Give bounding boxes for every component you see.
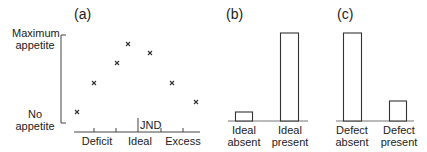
cat-ideal-absent: Ideal absent	[226, 124, 262, 148]
cat-defect-present-line1: Defect	[379, 124, 419, 136]
y-label-max: Maximum appetite	[12, 27, 58, 51]
bar-defect-absent	[344, 33, 362, 121]
y-label-min-line2: appetite	[12, 120, 58, 132]
y-label-min: No appetite	[12, 108, 58, 132]
bar-ideal-absent	[236, 112, 253, 121]
panel-c-bars	[336, 33, 414, 121]
x-axis	[74, 118, 200, 132]
y-axis-bracket	[61, 35, 66, 123]
x-label-excess: Excess	[165, 135, 201, 147]
x-label-ideal: Ideal	[126, 135, 154, 147]
point-1	[75, 110, 79, 114]
y-label-min-line1: No	[12, 108, 58, 120]
point-7	[194, 100, 198, 104]
cat-defect-absent-line1: Defect	[333, 124, 371, 136]
bar-ideal-present	[281, 33, 299, 121]
jnd-label: JND	[140, 119, 161, 131]
cat-defect-absent-line2: absent	[333, 136, 371, 148]
cat-defect-absent: Defect absent	[333, 124, 371, 148]
panel-c-title: (c)	[337, 6, 353, 22]
scatter-points	[75, 42, 198, 114]
y-label-max-line1: Maximum	[12, 27, 58, 39]
cat-ideal-present-line2: present	[271, 136, 309, 148]
y-label-max-line2: appetite	[12, 39, 58, 51]
cat-defect-present-line2: present	[379, 136, 419, 148]
panel-b-title: (b)	[226, 6, 243, 22]
point-6	[170, 81, 174, 85]
cat-ideal-present: Ideal present	[271, 124, 309, 148]
x-label-deficit: Deficit	[80, 135, 114, 147]
point-3	[115, 61, 119, 65]
panel-b-bars	[228, 33, 308, 121]
point-4	[126, 42, 130, 46]
cat-ideal-absent-line1: Ideal	[226, 124, 262, 136]
point-5	[148, 51, 152, 55]
bar-defect-present	[390, 101, 407, 121]
cat-ideal-absent-line2: absent	[226, 136, 262, 148]
cat-defect-present: Defect present	[379, 124, 419, 148]
panel-a-title: (a)	[74, 6, 91, 22]
cat-ideal-present-line1: Ideal	[271, 124, 309, 136]
point-2	[92, 81, 96, 85]
